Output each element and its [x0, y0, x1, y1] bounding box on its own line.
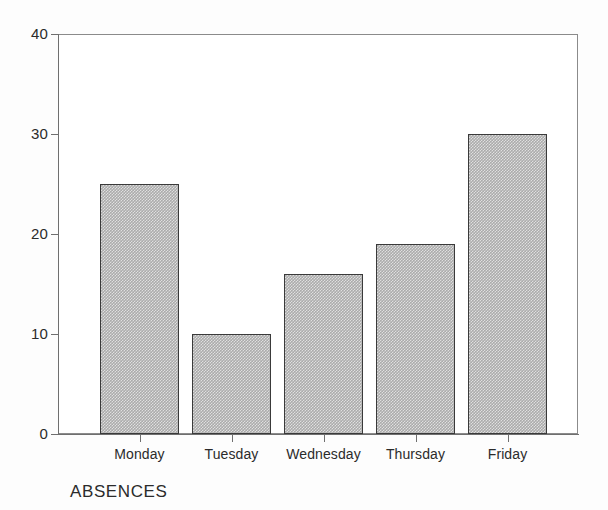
chart-page: 40 30 20 10 0 Monday Tuesday Wednesday T… [0, 0, 608, 510]
bar-thursday[interactable] [376, 244, 455, 434]
y-axis-label-30: 30 [2, 126, 48, 141]
y-axis-tick-10 [51, 334, 58, 335]
bar-friday[interactable] [468, 134, 547, 434]
y-axis-label-10-wrap: 10 [0, 326, 48, 341]
y-axis-label-0: 0 [2, 426, 48, 441]
x-axis-tick-monday [140, 435, 141, 442]
y-axis-tick-20 [51, 234, 58, 235]
y-axis-label-0-wrap: 0 [0, 426, 48, 441]
y-axis-line [58, 34, 59, 435]
y-axis-label-20-wrap: 20 [0, 226, 48, 241]
bar-wednesday[interactable] [284, 274, 363, 434]
y-axis-label-10: 10 [2, 326, 48, 341]
y-axis-tick-40 [51, 34, 58, 35]
x-axis-label-friday: Friday [448, 446, 568, 462]
chart-caption: ABSENCES [70, 482, 167, 502]
y-axis-label-40-wrap: 40 [0, 26, 48, 41]
y-axis-label-30-wrap: 30 [0, 126, 48, 141]
x-axis-tick-tuesday [232, 435, 233, 442]
bar-tuesday[interactable] [192, 334, 271, 434]
x-axis-tick-wednesday [324, 435, 325, 442]
y-axis-tick-0 [51, 434, 58, 435]
x-axis-line [58, 434, 579, 435]
y-axis-tick-30 [51, 134, 58, 135]
y-axis-label-40: 40 [2, 26, 48, 41]
bar-monday[interactable] [100, 184, 179, 434]
x-axis-tick-friday [508, 435, 509, 442]
y-axis-label-20: 20 [2, 226, 48, 241]
x-axis-tick-thursday [416, 435, 417, 442]
